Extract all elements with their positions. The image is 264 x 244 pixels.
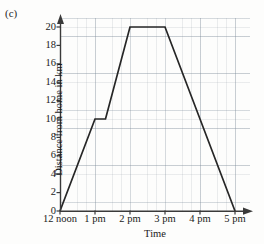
x-tick-label: 3 pm [154, 214, 175, 225]
figure-panel: (c) 02468101214161820 12 noon1 pm2 pm3 p… [0, 0, 264, 244]
x-tick-label: 5 pm [224, 214, 245, 225]
x-tick-label: 12 noon [43, 214, 77, 225]
x-axis-title: Time [60, 228, 250, 239]
y-axis-arrowhead [57, 14, 64, 24]
x-tick-label: 1 pm [84, 214, 105, 225]
y-axis-title: Distance from home in km [53, 25, 64, 215]
y-axis-title-wrap: Distance from home in km [26, 18, 27, 211]
x-tick-label: 2 pm [119, 214, 140, 225]
x-tick-label: 4 pm [189, 214, 210, 225]
